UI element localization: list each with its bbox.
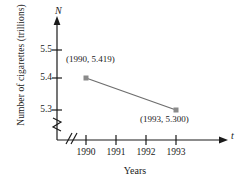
data-point-marker-1990 (84, 76, 89, 81)
x-axis-break-icon-second (71, 133, 77, 144)
cigarette-consumption-chart: Number of cigarettes (trillions) N t 5.5… (0, 0, 249, 186)
data-line-segment (86, 78, 176, 110)
plot-area (0, 0, 249, 186)
y-axis-arrowhead (54, 16, 61, 25)
x-axis-break-icon (66, 133, 72, 144)
data-point-marker-1993 (174, 108, 179, 113)
x-axis-arrowhead (219, 137, 228, 144)
y-axis-break-icon (53, 118, 61, 131)
